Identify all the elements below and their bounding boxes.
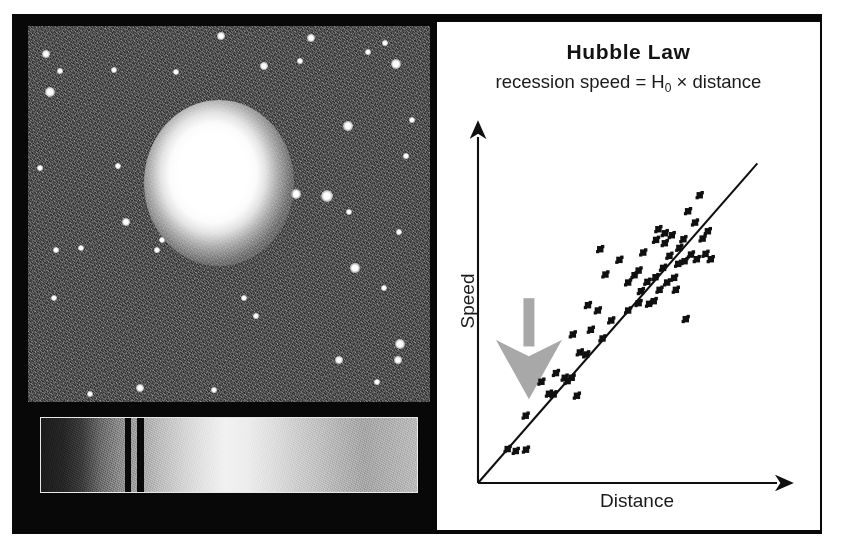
data-point	[598, 334, 606, 342]
star-point	[53, 247, 59, 253]
star-point	[321, 190, 333, 202]
star-point	[307, 34, 315, 42]
data-point	[661, 229, 669, 237]
data-point	[665, 252, 673, 260]
data-point	[587, 326, 595, 334]
trend-line	[478, 163, 757, 483]
star-point	[394, 356, 401, 363]
y-axis-label: Speed	[457, 246, 479, 356]
data-point	[696, 191, 704, 199]
data-point	[584, 301, 592, 309]
star-point	[403, 153, 408, 158]
data-point	[549, 390, 557, 398]
data-point	[650, 297, 658, 305]
galaxy-bright-core	[144, 100, 294, 266]
star-point	[297, 58, 302, 63]
data-point	[655, 286, 663, 294]
data-point	[615, 256, 623, 264]
data-point	[698, 234, 706, 242]
data-point	[582, 350, 590, 358]
data-point	[693, 255, 701, 263]
star-point	[37, 165, 42, 170]
galaxy-image	[28, 26, 430, 402]
data-point	[634, 266, 642, 274]
data-point	[661, 239, 669, 247]
star-point	[396, 229, 402, 235]
data-point	[601, 270, 609, 278]
data-point	[573, 391, 581, 399]
data-point	[675, 244, 683, 252]
data-point	[704, 227, 712, 235]
data-point	[552, 369, 560, 377]
data-point	[576, 348, 584, 356]
star-point	[382, 40, 387, 45]
data-point	[652, 236, 660, 244]
star-point	[211, 387, 217, 393]
data-point	[624, 278, 632, 286]
star-point	[365, 49, 371, 55]
star-point	[343, 121, 352, 130]
scatter-plot-canvas	[437, 22, 820, 530]
data-point	[651, 273, 659, 281]
data-point	[522, 445, 530, 453]
data-point	[596, 245, 604, 253]
spectrum-strip	[40, 417, 418, 493]
spectrum-grain-texture	[41, 418, 417, 492]
data-point	[624, 306, 632, 314]
data-point	[569, 330, 577, 338]
star-point	[260, 62, 267, 69]
star-point	[374, 379, 380, 385]
star-point	[57, 68, 63, 74]
data-point	[522, 411, 530, 419]
data-point	[537, 377, 545, 385]
hubble-law-chart-panel: Hubble Law recession speed = H0 × distan…	[437, 22, 820, 530]
data-point	[634, 299, 642, 307]
data-point	[512, 447, 520, 455]
data-point	[503, 445, 511, 453]
data-point	[637, 287, 645, 295]
hubble-law-figure: Hubble Law recession speed = H0 × distan…	[0, 0, 842, 556]
data-point	[691, 218, 699, 226]
data-point	[643, 278, 651, 286]
data-point	[707, 255, 715, 263]
data-point	[684, 207, 692, 215]
data-point-group	[503, 191, 714, 455]
star-point	[154, 247, 160, 253]
x-axis-label: Distance	[557, 490, 717, 512]
star-point	[115, 163, 121, 169]
data-point	[670, 274, 678, 282]
data-point	[568, 373, 576, 381]
data-point	[594, 306, 602, 314]
star-point	[391, 59, 401, 69]
data-point	[668, 231, 676, 239]
absorption-line	[137, 418, 144, 492]
data-point	[659, 264, 667, 272]
data-point	[672, 286, 680, 294]
star-point	[350, 263, 359, 272]
absorption-line	[125, 418, 131, 492]
data-point	[607, 316, 615, 324]
data-point	[654, 225, 662, 233]
data-point	[639, 248, 647, 256]
star-point	[409, 117, 415, 123]
data-point	[679, 235, 687, 243]
star-point	[253, 313, 258, 318]
data-point	[682, 315, 690, 323]
